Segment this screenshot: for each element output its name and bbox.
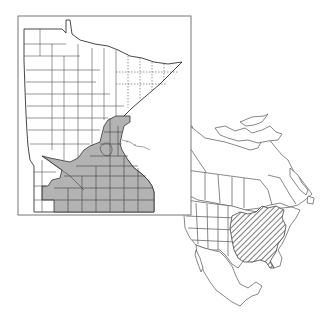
ellesmere-island <box>240 114 268 126</box>
newfoundland <box>307 196 314 204</box>
minnesota-panel <box>18 16 191 215</box>
range-map-figure <box>0 0 331 324</box>
arctic-islands <box>215 126 282 143</box>
